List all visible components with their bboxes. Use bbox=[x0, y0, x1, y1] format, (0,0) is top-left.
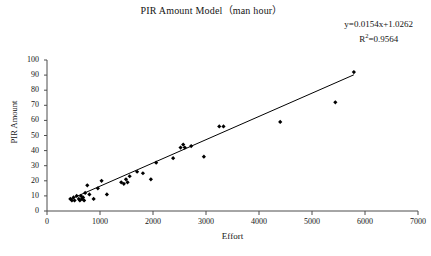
y-tick-label: 60 bbox=[19, 115, 39, 124]
scatter-point bbox=[221, 124, 225, 128]
scatter-point bbox=[202, 155, 206, 159]
x-tick-label: 4000 bbox=[242, 217, 276, 226]
x-tick-label: 6000 bbox=[348, 217, 382, 226]
x-tick-label: 3000 bbox=[189, 217, 223, 226]
y-tick-label: 50 bbox=[19, 131, 39, 140]
scatter-point bbox=[352, 70, 356, 74]
scatter-point bbox=[105, 192, 109, 196]
scatter-point bbox=[278, 120, 282, 124]
x-axis-ticks bbox=[47, 211, 418, 215]
scatter-point bbox=[99, 179, 103, 183]
scatter-point bbox=[128, 174, 132, 178]
scatter-point bbox=[171, 156, 175, 160]
scatter-points bbox=[68, 70, 356, 203]
scatter-point bbox=[217, 124, 221, 128]
y-tick-label: 100 bbox=[19, 55, 39, 64]
y-tick-label: 10 bbox=[19, 191, 39, 200]
scatter-point bbox=[85, 183, 89, 187]
y-tick-label: 80 bbox=[19, 85, 39, 94]
scatter-point bbox=[87, 192, 91, 196]
scatter-point bbox=[149, 177, 153, 181]
axes bbox=[47, 60, 418, 211]
x-tick-label: 2000 bbox=[136, 217, 170, 226]
x-tick-label: 5000 bbox=[295, 217, 329, 226]
y-tick-label: 90 bbox=[19, 70, 39, 79]
x-tick-label: 1000 bbox=[83, 217, 117, 226]
y-tick-label: 40 bbox=[19, 146, 39, 155]
trendline-path bbox=[70, 75, 354, 200]
scatter-point bbox=[83, 191, 87, 195]
scatter-point bbox=[333, 100, 337, 104]
trendline bbox=[70, 75, 354, 200]
scatter-point bbox=[141, 171, 145, 175]
y-tick-label: 30 bbox=[19, 161, 39, 170]
y-tick-label: 70 bbox=[19, 100, 39, 109]
y-tick-label: 20 bbox=[19, 176, 39, 185]
x-tick-label: 0 bbox=[30, 217, 64, 226]
x-tick-label: 7000 bbox=[401, 217, 431, 226]
scatter-point bbox=[92, 197, 96, 201]
y-tick-label: 0 bbox=[19, 206, 39, 215]
scatter-point bbox=[189, 144, 193, 148]
scatter-point bbox=[178, 145, 182, 149]
